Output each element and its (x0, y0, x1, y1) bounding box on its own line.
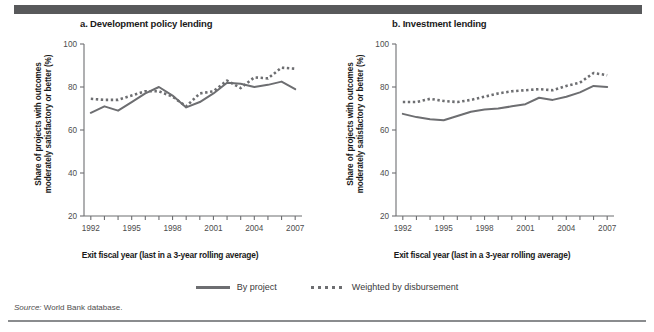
figure-top-rule (14, 5, 642, 14)
solid-line-swatch-icon (196, 286, 230, 289)
svg-text:2004: 2004 (245, 224, 264, 233)
svg-text:20: 20 (380, 212, 390, 221)
svg-text:40: 40 (380, 169, 390, 178)
svg-text:1995: 1995 (435, 224, 454, 233)
panel-a-title: a. Development policy lending (80, 18, 212, 29)
svg-text:1992: 1992 (82, 224, 101, 233)
panel-b-plot: 20406080100199219951998200120042007 (370, 38, 620, 253)
svg-text:60: 60 (380, 126, 390, 135)
legend-label-weighted-by-disbursement: Weighted by disbursement (352, 282, 458, 292)
svg-text:100: 100 (375, 40, 389, 49)
source-note-text: World Bank database. (44, 303, 123, 312)
svg-text:2004: 2004 (557, 224, 576, 233)
svg-text:2001: 2001 (204, 224, 223, 233)
legend-item-weighted-by-disbursement: Weighted by disbursement (311, 282, 458, 292)
source-note-prefix: Source: (14, 303, 42, 312)
svg-text:2007: 2007 (598, 224, 617, 233)
svg-text:20: 20 (68, 212, 78, 221)
source-note: Source: World Bank database. (14, 303, 122, 312)
svg-text:100: 100 (63, 40, 77, 49)
panel-a-y-axis-label: Share of projects with outcomes moderate… (34, 44, 54, 204)
legend-item-by-project: By project (196, 282, 277, 292)
panel-a-x-axis-label: Exit fiscal year (last in a 3-year rolli… (36, 250, 304, 260)
dotted-line-swatch-icon (311, 286, 345, 289)
chart-legend: By project Weighted by disbursement (0, 282, 654, 292)
panel-a-plot: 20406080100199219951998200120042007 (58, 38, 308, 253)
svg-text:1998: 1998 (475, 224, 494, 233)
svg-text:2007: 2007 (286, 224, 305, 233)
panel-b-y-axis-label: Share of projects with outcomes moderate… (346, 44, 366, 204)
figure-bottom-rule (8, 320, 646, 322)
chart-panel-b: b. Investment lending Share of projects … (330, 18, 630, 270)
panel-b-title: b. Investment lending (392, 18, 487, 29)
svg-text:1995: 1995 (123, 224, 142, 233)
svg-text:80: 80 (68, 83, 78, 92)
svg-text:2001: 2001 (516, 224, 535, 233)
chart-panel-a: a. Development policy lending Share of p… (18, 18, 318, 270)
svg-text:40: 40 (68, 169, 78, 178)
figure-container: a. Development policy lending Share of p… (0, 0, 654, 332)
panel-b-x-axis-label: Exit fiscal year (last in a 3-year rolli… (348, 250, 616, 260)
svg-text:1998: 1998 (163, 224, 182, 233)
svg-text:1992: 1992 (394, 224, 413, 233)
legend-label-by-project: By project (237, 282, 277, 292)
svg-text:60: 60 (68, 126, 78, 135)
svg-text:80: 80 (380, 83, 390, 92)
